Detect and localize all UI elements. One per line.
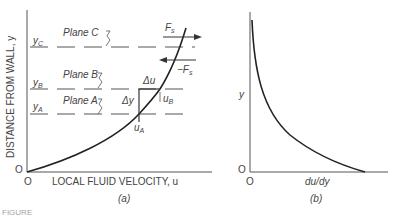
u-a-label: uA <box>134 122 145 134</box>
panel-a-origin-y: O <box>15 164 23 175</box>
plane-b-label: Plane B <box>63 69 98 80</box>
panel-a: DISTANCE FROM WALL, y yC yB yA Plane C P… <box>5 10 212 204</box>
panel-b-origin-x: O <box>246 176 254 187</box>
plane-c-pointer-icon <box>106 31 110 46</box>
panel-b-caption: (b) <box>310 193 322 204</box>
u-b-label: uB <box>163 93 174 105</box>
delta-y-label: Δy <box>121 95 135 106</box>
level-label-b: yB <box>32 77 43 89</box>
panel-b: y O O du/dy (b) <box>238 12 388 204</box>
plane-c-label: Plane C <box>63 27 99 38</box>
gradient-curve <box>252 20 365 172</box>
neg-force-label: −Fs <box>177 64 193 76</box>
neg-force-arrowhead-icon <box>159 57 167 63</box>
figure-label: FIGURE <box>2 208 32 216</box>
panel-b-origin-y: O <box>238 164 246 175</box>
panel-b-x-axis-label: du/dy <box>305 176 330 187</box>
plane-a-pointer-icon <box>98 99 102 114</box>
panel-b-y-axis-label: y <box>238 89 245 100</box>
plane-a-label: Plane A <box>63 95 98 106</box>
plane-b-pointer-icon <box>98 73 102 88</box>
panel-a-x-axis-label: LOCAL FLUID VELOCITY, u <box>52 176 178 187</box>
level-label-c: yC <box>32 35 44 47</box>
panel-a-origin-x: O <box>24 176 32 187</box>
delta-u-label: Δu <box>142 75 156 86</box>
figure-canvas: DISTANCE FROM WALL, y yC yB yA Plane C P… <box>0 0 398 216</box>
panel-a-caption: (a) <box>118 193 130 204</box>
force-label: Fs <box>165 22 175 34</box>
level-label-a: yA <box>32 101 43 113</box>
force-arrowhead-icon <box>194 34 202 40</box>
panel-a-y-axis-label: DISTANCE FROM WALL, y <box>5 36 16 158</box>
